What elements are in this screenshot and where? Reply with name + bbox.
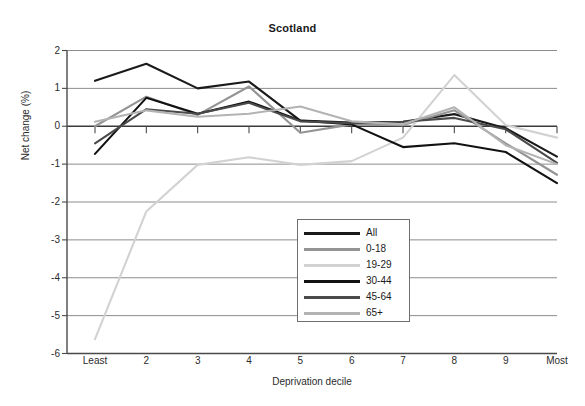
- legend-item[interactable]: All: [298, 225, 411, 242]
- legend-label: 30-44: [366, 274, 392, 288]
- legend-swatch: [304, 248, 360, 251]
- legend-label: 19-29: [366, 258, 392, 272]
- x-axis-title: Deprivation decile: [67, 376, 557, 387]
- legend-item[interactable]: 65+: [298, 305, 411, 322]
- legend-item[interactable]: 45-64: [298, 289, 411, 306]
- legend-swatch: [304, 280, 360, 283]
- legend-swatch: [304, 264, 360, 267]
- plot-area: [0, 0, 585, 406]
- series-line-65-: [95, 107, 557, 165]
- legend-item[interactable]: 19-29: [298, 257, 411, 274]
- legend-label: 0-18: [366, 242, 386, 256]
- legend-label: All: [366, 226, 377, 240]
- legend-item[interactable]: 0-18: [298, 241, 411, 258]
- legend-label: 65+: [366, 306, 383, 320]
- legend-swatch: [304, 232, 360, 235]
- legend-label: 45-64: [366, 290, 392, 304]
- legend: All0-1819-2930-4445-6465+: [297, 219, 410, 322]
- legend-swatch: [304, 296, 360, 299]
- legend-swatch: [304, 312, 360, 315]
- series-line-0-18: [95, 86, 557, 174]
- legend-item[interactable]: 30-44: [298, 273, 411, 290]
- chart-figure: Scotland Net change (%) 210-1-2-3-4-5-6 …: [0, 0, 585, 406]
